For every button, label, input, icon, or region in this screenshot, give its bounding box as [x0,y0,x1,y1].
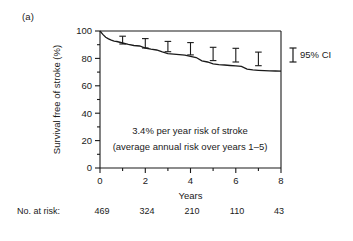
error-bars [119,36,261,65]
y-axis-ticks [95,31,100,168]
at-risk-label: No. at risk: [17,206,60,216]
at-risk-row: No. at risk: 469 324 210 110 43 [0,206,353,222]
y-tick-label: 60 [81,80,92,91]
error-bar-year-4 [187,43,194,55]
y-tick-label: 0 [87,162,92,173]
x-tick-label: 4 [188,175,193,186]
at-risk-value-year-6: 110 [230,206,244,216]
x-tick-label: 2 [143,175,148,186]
at-risk-value-year-2: 324 [139,206,154,216]
at-risk-value-year-0: 469 [94,206,109,216]
x-tick-label: 8 [278,175,283,186]
y-tick-label: 100 [76,25,92,36]
plot-annotation: 3.4% per year risk of stroke (average an… [113,125,268,152]
error-bar-icon [290,48,297,62]
x-axis-ticks [100,168,281,173]
legend-label: 95% CI [300,49,331,60]
at-risk-value-year-8: 43 [274,206,284,216]
y-tick-label: 80 [81,53,92,64]
y-axis-tick-labels: 100 80 60 40 20 0 [76,25,92,173]
y-axis-label: Survival free of stroke (%) [51,45,62,154]
x-axis-tick-labels: 0 2 4 6 8 [97,175,283,186]
at-risk-value-year-4: 210 [184,206,199,216]
annotation-line-1: 3.4% per year risk of stroke [132,125,248,136]
error-bar-year-5 [210,47,217,60]
figure-panel-a: (a) 100 80 60 40 2 [0,0,353,241]
error-bar-year-3 [165,41,172,51]
annotation-line-2: (average annual risk over years 1–5) [113,141,268,152]
x-tick-label: 0 [97,175,102,186]
x-axis-label: Years [179,190,203,201]
error-bar-year-6 [233,48,240,62]
x-tick-label: 6 [233,175,238,186]
survival-chart: 100 80 60 40 20 0 Survival free of strok… [0,0,353,241]
error-bar-year-7 [255,52,262,66]
y-tick-label: 20 [81,135,92,146]
y-tick-label: 40 [81,108,92,119]
